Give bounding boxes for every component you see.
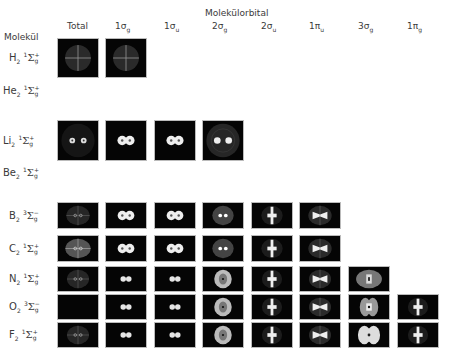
orbital-panel-f2-2su bbox=[251, 322, 293, 348]
orbital-panel-n2-total bbox=[57, 266, 99, 292]
orbital-panel-f2-total bbox=[57, 322, 99, 348]
text-part: O bbox=[9, 301, 17, 312]
orbital-panel-b2-1pu bbox=[299, 202, 341, 229]
row-label-he2: He2 1Σ+g bbox=[3, 84, 40, 98]
text-part: g bbox=[126, 26, 130, 33]
column-group-title: Molekülorbital bbox=[205, 8, 268, 18]
text-part: g bbox=[34, 249, 39, 255]
column-header-total: Total bbox=[67, 21, 88, 31]
text-part: Σ bbox=[27, 167, 34, 178]
orbital-panel-h2-total bbox=[57, 38, 99, 78]
text-part: u bbox=[175, 26, 179, 33]
text-part: g bbox=[34, 216, 39, 222]
term-indices: +g bbox=[34, 273, 39, 285]
text-part: 2σ bbox=[212, 21, 223, 31]
orbital-panel-f2-3sg bbox=[348, 322, 390, 348]
term-indices: +g bbox=[34, 167, 39, 179]
orbital-panel-n2-2su bbox=[251, 266, 293, 292]
column-header-1su: 1σu bbox=[164, 21, 179, 33]
text-part: Σ bbox=[27, 273, 34, 284]
orbital-panel-c2-2su bbox=[251, 235, 293, 262]
text-part: g bbox=[223, 26, 227, 33]
orbital-panel-c2-1sg bbox=[105, 235, 147, 262]
orbital-panel-o2-2su bbox=[251, 294, 293, 320]
column-header-1pu: 1πu bbox=[309, 21, 324, 33]
orbital-panel-li2-total bbox=[57, 120, 99, 161]
text-part: He bbox=[3, 85, 17, 96]
text-part: Σ bbox=[27, 52, 34, 63]
orbital-panel-f2-1su bbox=[154, 322, 196, 348]
orbital-panel-n2-1su bbox=[154, 266, 196, 292]
orbital-panel-o2-2sg bbox=[202, 294, 244, 320]
orbital-panel-o2-3sg bbox=[348, 294, 390, 320]
row-label-be2: Be2 1Σ+g bbox=[3, 166, 39, 180]
term-indices: +g bbox=[33, 329, 38, 341]
text-part: 1π bbox=[309, 21, 320, 31]
orbital-panel-o2-1pg bbox=[397, 294, 439, 320]
term-indices: +g bbox=[34, 52, 39, 64]
orbital-panel-b2-1su bbox=[154, 202, 196, 229]
orbital-panel-n2-1sg bbox=[105, 266, 147, 292]
text-part: 2σ bbox=[261, 21, 272, 31]
orbital-panel-b2-2su bbox=[251, 202, 293, 229]
text-part: Total bbox=[67, 21, 88, 31]
text-part: 1π bbox=[407, 21, 418, 31]
orbital-panel-b2-total bbox=[57, 202, 99, 229]
text-part: g bbox=[34, 58, 39, 64]
text-part: u bbox=[272, 26, 276, 33]
text-part: H bbox=[9, 52, 17, 63]
orbital-panel-n2-2sg bbox=[202, 266, 244, 292]
text-part: g bbox=[33, 335, 38, 341]
orbital-panel-f2-1pg bbox=[397, 322, 439, 348]
text-part: Σ bbox=[22, 135, 29, 146]
row-header: Molekül bbox=[4, 32, 38, 42]
term-indices: −g bbox=[35, 301, 40, 313]
term-indices: +g bbox=[29, 135, 34, 147]
row-label-o2: O2 3Σ−g bbox=[9, 300, 40, 314]
term-indices: −g bbox=[34, 210, 39, 222]
orbital-panel-o2-1su bbox=[154, 294, 196, 320]
orbital-panel-c2-1su bbox=[154, 235, 196, 262]
orbital-panel-n2-1pu bbox=[299, 266, 341, 292]
orbital-panel-o2-1sg bbox=[105, 294, 147, 320]
row-label-n2: N2 1Σ+g bbox=[9, 272, 39, 286]
column-header-1sg: 1σg bbox=[115, 21, 130, 33]
orbital-panel-li2-2sg bbox=[202, 120, 244, 161]
row-label-f2: F2 1Σ+g bbox=[9, 328, 38, 342]
term-indices: +g bbox=[34, 243, 39, 255]
text-part: Be bbox=[3, 167, 16, 178]
orbital-panel-c2-total bbox=[57, 235, 99, 262]
orbital-panel-c2-2sg bbox=[202, 235, 244, 262]
text-part: g bbox=[34, 173, 39, 179]
text-part: Σ bbox=[27, 243, 34, 254]
text-part: 3σ bbox=[358, 21, 369, 31]
text-part: Σ bbox=[28, 85, 35, 96]
orbital-panel-n2-3sg bbox=[348, 266, 390, 292]
row-label-h2: H2 1Σ+g bbox=[9, 51, 39, 65]
orbital-panel-li2-1sg bbox=[105, 120, 147, 161]
orbital-panel-o2-1pu bbox=[299, 294, 341, 320]
text-part: 2 bbox=[17, 91, 21, 98]
row-label-li2: Li2 1Σ+g bbox=[3, 134, 34, 148]
row-label-c2: C2 1Σ+g bbox=[9, 242, 39, 256]
text-part: 1σ bbox=[164, 21, 175, 31]
orbital-panel-li2-1su bbox=[154, 120, 196, 161]
text-part: g bbox=[35, 307, 40, 313]
orbital-panel-c2-1pu bbox=[299, 235, 341, 262]
row-label-b2: B2 3Σ−g bbox=[9, 209, 39, 223]
orbital-panel-b2-1sg bbox=[105, 202, 147, 229]
text-part: g bbox=[369, 26, 373, 33]
term-indices: +g bbox=[35, 85, 40, 97]
text-part: C bbox=[9, 243, 16, 254]
column-header-1pg: 1πg bbox=[407, 21, 422, 33]
orbital-panel-b2-2sg bbox=[202, 202, 244, 229]
text-part: g bbox=[418, 26, 422, 33]
text-part: B bbox=[9, 210, 16, 221]
text-part: u bbox=[320, 26, 324, 33]
orbital-panel-h2-1sg bbox=[105, 38, 147, 78]
text-part: Σ bbox=[28, 301, 35, 312]
column-header-2sg: 2σg bbox=[212, 21, 227, 33]
orbital-panel-f2-1sg bbox=[105, 322, 147, 348]
text-part: g bbox=[34, 279, 39, 285]
column-header-2su: 2σu bbox=[261, 21, 276, 33]
